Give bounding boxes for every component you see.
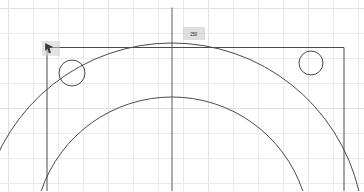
sketch-geometry-layer[interactable] (0, 0, 364, 191)
sketch-canvas[interactable]: 250 (0, 0, 364, 191)
boundary-rectangle[interactable] (47, 48, 344, 192)
left-hole-circle[interactable] (59, 60, 85, 86)
outer-arc[interactable] (0, 43, 359, 191)
right-hole-circle[interactable] (299, 51, 323, 75)
